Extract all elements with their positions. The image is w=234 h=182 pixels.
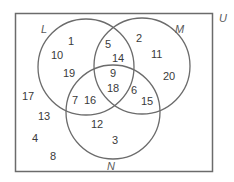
- region-m-only-value: 2: [136, 32, 142, 44]
- region-outside-value: 4: [32, 132, 38, 144]
- venn-diagram: U L M N 1 10 19 5 14 2 11 20 9 18 7 16 6…: [0, 0, 234, 182]
- region-m-only-value: 20: [163, 70, 175, 82]
- region-l-m-value: 5: [105, 38, 111, 50]
- region-l-n-value: 16: [84, 94, 96, 106]
- region-m-only-value: 11: [151, 48, 162, 60]
- region-l-m-n-value: 18: [107, 82, 119, 94]
- region-m-n-value: 15: [141, 95, 153, 107]
- set-l-label: L: [41, 23, 47, 35]
- set-m-label: M: [175, 23, 185, 35]
- region-l-m-n-value: 9: [110, 67, 116, 79]
- region-outside-value: 8: [50, 150, 56, 162]
- region-l-only-value: 10: [51, 49, 63, 61]
- set-n-label: N: [107, 160, 115, 172]
- region-l-n-value: 7: [72, 94, 78, 106]
- region-l-m-value: 14: [112, 52, 124, 64]
- region-n-only-value: 12: [91, 118, 103, 130]
- region-n-only-value: 3: [112, 134, 118, 146]
- region-m-n-value: 6: [131, 84, 137, 96]
- region-l-only-value: 1: [68, 35, 74, 47]
- region-outside-value: 13: [38, 110, 50, 122]
- region-outside-value: 17: [22, 90, 34, 102]
- universe-label: U: [219, 12, 227, 24]
- region-l-only-value: 19: [63, 67, 75, 79]
